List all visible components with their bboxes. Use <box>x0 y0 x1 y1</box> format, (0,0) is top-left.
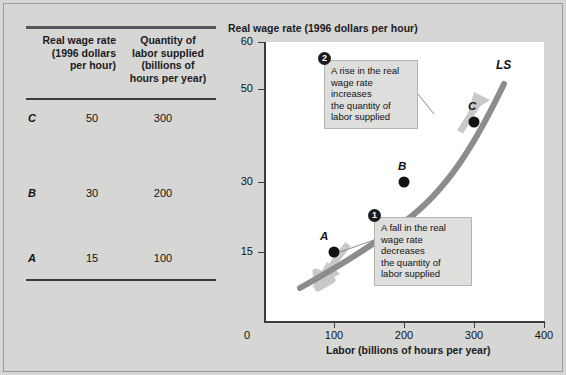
row-label-c: C <box>28 112 36 124</box>
table-header-quantity-line4: hours per year) <box>120 72 216 85</box>
data-table: Real wage rate (1996 dollars per hour) Q… <box>26 26 216 296</box>
row-quantity-b: 200 <box>134 187 192 199</box>
callout-box-1: A fall in the real wage rate decreases t… <box>374 217 472 286</box>
callout-badge-1: 1 <box>368 209 381 222</box>
table-rule-middle <box>26 98 216 100</box>
table-header-wage-line2: (1996 dollars <box>28 47 116 60</box>
curve-label-ls: LS <box>496 58 511 72</box>
callout-2-line3: the quantity of <box>331 100 412 112</box>
callout-1-line4: labor supplied <box>381 268 466 280</box>
point-label-b: B <box>398 160 406 172</box>
callout-box-2: A rise in the real wage rate increases t… <box>324 60 418 129</box>
row-label-b: B <box>28 187 36 199</box>
data-point-c <box>469 117 480 128</box>
leader-line-callout-2 <box>418 94 434 114</box>
table-header-wage: Real wage rate (1996 dollars per hour) <box>28 34 120 84</box>
callout-1-line2: wage rate decreases <box>381 234 466 257</box>
table-rule-bottom <box>26 279 216 281</box>
table-header-wage-line1: Real wage rate <box>28 34 116 47</box>
point-label-c: C <box>468 100 476 112</box>
table-row: A 15 100 <box>26 252 216 266</box>
callout-2-line4: labor supplied <box>331 111 412 123</box>
row-label-a: A <box>28 252 36 264</box>
table-row: B 30 200 <box>26 187 216 201</box>
row-wage-c: 50 <box>66 112 118 124</box>
table-rule-top <box>26 26 216 29</box>
table-header-quantity: Quantity of labor supplied (billions of … <box>120 34 216 84</box>
table-row: C 50 300 <box>26 112 216 126</box>
table-header-row: Real wage rate (1996 dollars per hour) Q… <box>26 34 216 84</box>
row-quantity-c: 300 <box>134 112 192 124</box>
chart-area: Real wage rate (1996 dollars per hour) L… <box>228 22 558 367</box>
data-point-b <box>399 177 410 188</box>
point-label-a: A <box>320 230 328 242</box>
data-point-a <box>329 247 340 258</box>
table-header-quantity-line1: Quantity of <box>120 34 216 47</box>
callout-2-line1: A rise in the real <box>331 65 412 77</box>
callout-1-line1: A fall in the real <box>381 222 466 234</box>
table-header-quantity-line2: labor supplied <box>120 47 216 60</box>
figure-container: Real wage rate (1996 dollars per hour) Q… <box>0 0 566 375</box>
callout-1-line3: the quantity of <box>381 257 466 269</box>
row-wage-a: 15 <box>66 252 118 264</box>
callout-2-line2: wage rate increases <box>331 77 412 100</box>
row-wage-b: 30 <box>66 187 118 199</box>
row-quantity-a: 100 <box>134 252 192 264</box>
table-header-wage-line3: per hour) <box>28 59 116 72</box>
callout-badge-2: 2 <box>318 52 331 65</box>
table-header-quantity-line3: (billions of <box>120 59 216 72</box>
